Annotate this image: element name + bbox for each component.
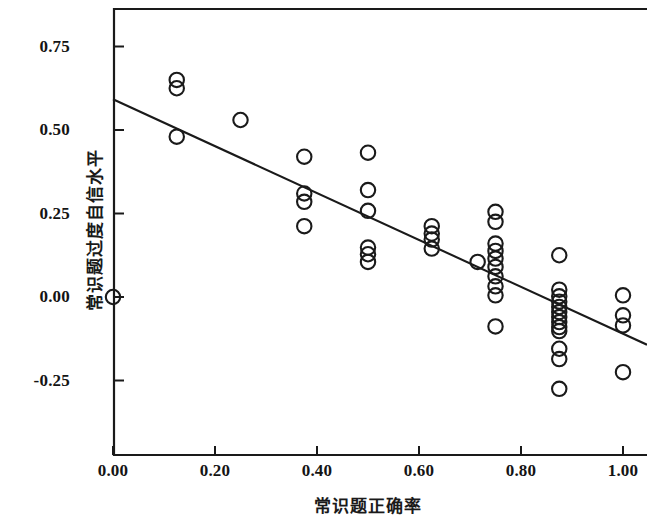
data-point-marker (616, 288, 630, 302)
data-point-marker (297, 186, 311, 200)
data-point-marker (233, 113, 247, 127)
scatter-plot-figure: 0.000.200.400.600.801.00 -0.250.000.250.… (0, 0, 647, 524)
data-point-marker (170, 73, 184, 87)
y-tick-label: 0.00 (39, 287, 70, 307)
tick-marks (113, 47, 623, 456)
data-point-marker (552, 248, 566, 262)
data-point-markers (106, 73, 630, 396)
x-tick-label: 1.00 (608, 461, 639, 481)
data-point-marker (170, 81, 184, 95)
data-point-marker (488, 288, 502, 302)
data-point-marker (297, 195, 311, 209)
data-point-marker (361, 183, 375, 197)
data-point-marker (552, 352, 566, 366)
x-tick-label: 0.80 (506, 461, 537, 481)
y-axis-title: 常识题过度自信水平 (81, 149, 106, 311)
y-tick-label: 0.50 (39, 120, 70, 140)
data-point-marker (361, 146, 375, 160)
data-point-marker (616, 318, 630, 332)
data-point-marker (488, 215, 502, 229)
data-point-marker (616, 365, 630, 379)
y-tick-label: 0.25 (39, 204, 70, 224)
y-tick-label: 0.75 (39, 37, 70, 57)
x-tick-label: 0.20 (200, 461, 231, 481)
x-tick-label: 0.00 (98, 461, 129, 481)
data-point-marker (488, 319, 502, 333)
y-tick-label: -0.25 (34, 371, 70, 391)
x-tick-label: 0.40 (302, 461, 333, 481)
data-point-marker (552, 382, 566, 396)
data-point-marker (297, 219, 311, 233)
data-point-marker (297, 150, 311, 164)
x-tick-label: 0.60 (404, 461, 435, 481)
data-point-marker (170, 129, 184, 143)
x-axis-title: 常识题正确率 (314, 492, 422, 517)
